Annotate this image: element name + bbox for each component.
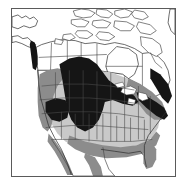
- north-america-map: [12, 9, 175, 176]
- map-frame: [11, 8, 176, 177]
- range-map-figure: Core range Secondary range Peripheral ra…: [0, 0, 188, 190]
